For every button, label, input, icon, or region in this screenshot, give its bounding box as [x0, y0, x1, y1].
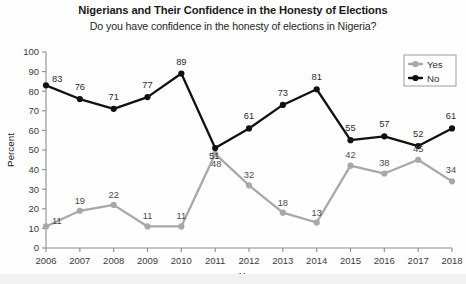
point-value-label: 61	[446, 111, 456, 121]
data-point	[449, 125, 455, 131]
y-tick-label: 90	[28, 66, 39, 77]
data-point	[314, 219, 320, 225]
point-value-label: 11	[52, 216, 62, 226]
x-tick-label: 2012	[238, 255, 259, 266]
line-chart-plot: 0102030405060708090100Percent 2006200720…	[0, 0, 466, 284]
x-tick-label: 2010	[171, 255, 192, 266]
chart-legend: YesNo	[404, 55, 456, 86]
data-series-layer	[43, 70, 455, 229]
data-point	[111, 202, 117, 208]
legend-marker-no[interactable]	[412, 75, 418, 81]
point-value-label: 19	[75, 196, 85, 206]
point-value-label: 13	[311, 208, 321, 218]
y-tick-label: 40	[28, 164, 39, 175]
series-line-yes	[46, 154, 452, 227]
x-tick-label: 2013	[272, 255, 293, 266]
x-tick-label: 2015	[340, 255, 361, 266]
point-value-label: 76	[75, 82, 85, 92]
x-tick-label: 2014	[306, 255, 327, 266]
footer-band	[0, 274, 466, 284]
data-point	[178, 223, 184, 229]
point-value-label: 83	[52, 74, 62, 84]
data-point	[77, 96, 83, 102]
point-value-label: 11	[143, 211, 153, 221]
point-value-label: 42	[345, 150, 355, 160]
legend-label-no[interactable]: No	[427, 73, 439, 84]
point-value-label: 81	[311, 72, 321, 82]
point-value-label: 22	[108, 190, 118, 200]
x-tick-label: 2008	[103, 255, 124, 266]
x-tick-label: 2017	[408, 255, 429, 266]
y-tick-label: 100	[23, 46, 39, 57]
y-tick-label: 20	[28, 203, 39, 214]
data-point	[43, 223, 49, 229]
legend-marker-yes[interactable]	[412, 61, 418, 67]
point-value-label: 71	[108, 92, 118, 102]
point-value-label: 89	[176, 57, 186, 67]
point-value-label: 52	[413, 129, 423, 139]
point-value-label: 38	[379, 158, 389, 168]
y-tick-label: 70	[28, 105, 39, 116]
data-point	[246, 125, 252, 131]
data-point	[178, 70, 184, 76]
data-point	[449, 178, 455, 184]
point-value-label: 51	[209, 151, 219, 161]
data-point	[144, 94, 150, 100]
point-value-label: 34	[446, 165, 456, 175]
data-point	[144, 223, 150, 229]
y-axis-title: Percent	[5, 133, 16, 167]
y-tick-label: 60	[28, 125, 39, 136]
data-point	[77, 208, 83, 214]
point-value-label: 57	[379, 119, 389, 129]
data-point	[347, 137, 353, 143]
data-point-labels: 1119221111483218134238453483767177895161…	[52, 57, 456, 227]
data-point	[246, 182, 252, 188]
data-point	[111, 106, 117, 112]
data-point	[280, 102, 286, 108]
y-tick-label: 0	[34, 242, 39, 253]
x-tick-label: 2006	[35, 255, 56, 266]
point-value-label: 11	[177, 211, 187, 221]
y-tick-label: 50	[28, 144, 39, 155]
point-value-label: 32	[244, 170, 254, 180]
x-tick-label: 2007	[69, 255, 90, 266]
point-value-label: 55	[345, 123, 355, 133]
y-tick-label: 80	[28, 86, 39, 97]
x-tick-label: 2018	[441, 255, 462, 266]
data-point	[43, 82, 49, 88]
y-axis: 0102030405060708090100Percent	[5, 46, 46, 253]
x-tick-label: 2016	[374, 255, 395, 266]
y-tick-label: 10	[28, 223, 39, 234]
point-value-label: 61	[244, 111, 254, 121]
point-value-label: 45	[413, 144, 423, 154]
data-point	[280, 210, 286, 216]
data-point	[381, 170, 387, 176]
chart-page: Nigerians and Their Confidence in the Ho…	[0, 0, 466, 284]
point-value-label: 18	[278, 198, 288, 208]
x-tick-label: 2011	[205, 255, 225, 266]
data-point	[314, 86, 320, 92]
y-tick-label: 30	[28, 184, 39, 195]
x-tick-label: 2009	[137, 255, 158, 266]
data-point	[347, 163, 353, 169]
legend-label-yes[interactable]: Yes	[427, 59, 443, 70]
data-point	[415, 157, 421, 163]
point-value-label: 73	[278, 88, 288, 98]
point-value-label: 77	[142, 80, 152, 90]
data-point	[381, 133, 387, 139]
